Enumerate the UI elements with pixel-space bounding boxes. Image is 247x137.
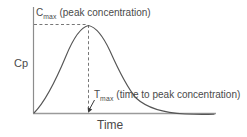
tmax-subscript-text: max bbox=[100, 95, 113, 102]
cmax-annotation-label: Cmax (peak concentration) bbox=[36, 8, 151, 21]
tmax-description-text: (time to peak concentration) bbox=[114, 89, 241, 100]
tmax-annotation-label: Tmax (time to peak concentration) bbox=[94, 90, 240, 103]
cmax-subscript-text: max bbox=[43, 13, 56, 20]
x-axis-label: Time bbox=[97, 119, 123, 131]
y-axis-label: Cp bbox=[14, 58, 28, 69]
cmax-description-text: (peak concentration) bbox=[57, 7, 151, 18]
pharmacokinetic-curve-figure: Cmax (peak concentration) Tmax (time to … bbox=[0, 0, 247, 137]
